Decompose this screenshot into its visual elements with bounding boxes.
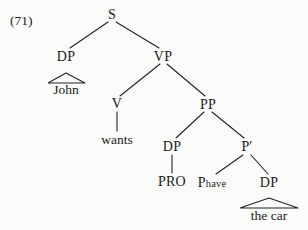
terminal-john: John	[53, 83, 79, 97]
pbar-to-p	[216, 155, 243, 174]
node-dp-pro: DP	[163, 140, 181, 154]
node-dp-object: DP	[260, 176, 278, 190]
node-p-head-main: P	[198, 175, 206, 190]
node-p-head-subscript: have	[206, 178, 227, 189]
node-p-head: Phave	[198, 176, 227, 190]
node-p-bar: P′	[241, 140, 252, 154]
node-s: S	[108, 8, 116, 22]
terminal-the-car: the car	[251, 209, 287, 223]
pbar-to-dp	[251, 155, 268, 174]
vp-to-v	[120, 64, 160, 96]
s-to-vp	[116, 22, 159, 48]
node-pp: PP	[200, 98, 216, 112]
tree-branch-lines	[0, 0, 308, 230]
node-dp-subject: DP	[57, 50, 75, 64]
s-to-dp	[70, 22, 108, 48]
the-car-triangle	[240, 198, 298, 208]
terminal-wants: wants	[101, 133, 133, 147]
node-pro: PRO	[158, 175, 186, 189]
pp-to-dp	[176, 112, 204, 138]
node-v: V	[112, 97, 122, 111]
vp-to-pp	[167, 64, 205, 96]
pp-to-pbar	[212, 112, 244, 138]
node-vp: VP	[154, 50, 172, 64]
syntax-tree-figure: (71) S DP VP John V PP wants DP P′ PRO P…	[0, 0, 308, 230]
